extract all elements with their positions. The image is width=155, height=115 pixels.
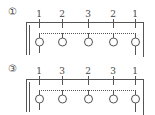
panel-2: ③ 1 3 2 3 1	[0, 57, 155, 114]
frame-diagram	[0, 57, 155, 115]
frame-diagram	[0, 0, 155, 57]
panel-1: ① 1 2 3 2 1	[0, 0, 155, 57]
